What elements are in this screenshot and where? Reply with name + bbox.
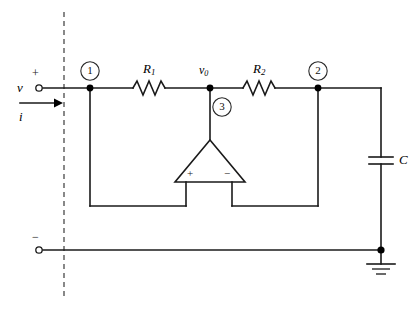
node-label-3: 3 bbox=[212, 101, 232, 112]
opamp-plus-input-label: + bbox=[187, 168, 193, 179]
junction-dot-ground bbox=[377, 246, 384, 253]
opamp-minus-input-label: − bbox=[224, 168, 230, 179]
circuit-diagram-canvas: v + − i 1 2 3 R1 R2 v0 C + − bbox=[0, 0, 417, 315]
input-terminal-positive bbox=[36, 85, 42, 91]
input-current-label: i bbox=[19, 110, 23, 123]
capacitor-label: C bbox=[399, 153, 408, 166]
resistor-2-zigzag bbox=[243, 81, 275, 95]
resistor-2-label: R2 bbox=[253, 62, 265, 77]
resistor-2-subscript: 2 bbox=[261, 67, 265, 77]
input-voltage-label: v bbox=[17, 81, 23, 94]
resistor-2-symbol: R bbox=[253, 61, 261, 76]
resistor-1-symbol: R bbox=[143, 61, 151, 76]
input-minus-sign: − bbox=[32, 231, 39, 243]
junction-dot-node1 bbox=[87, 85, 94, 92]
junction-dot-v0 bbox=[207, 85, 214, 92]
opamp-triangle bbox=[175, 140, 245, 182]
input-plus-sign: + bbox=[32, 67, 39, 79]
resistor-1-label: R1 bbox=[143, 62, 155, 77]
resistor-1-zigzag bbox=[133, 81, 165, 95]
junction-dot-node2 bbox=[315, 85, 322, 92]
output-node-subscript: 0 bbox=[204, 69, 208, 78]
node-label-1: 1 bbox=[80, 65, 100, 76]
circuit-schematic-svg bbox=[0, 0, 417, 315]
resistor-1-subscript: 1 bbox=[151, 67, 155, 77]
node-label-2: 2 bbox=[308, 65, 328, 76]
current-arrow-head bbox=[54, 99, 63, 108]
output-node-voltage-label: v0 bbox=[199, 64, 208, 78]
input-terminal-negative bbox=[36, 247, 42, 253]
